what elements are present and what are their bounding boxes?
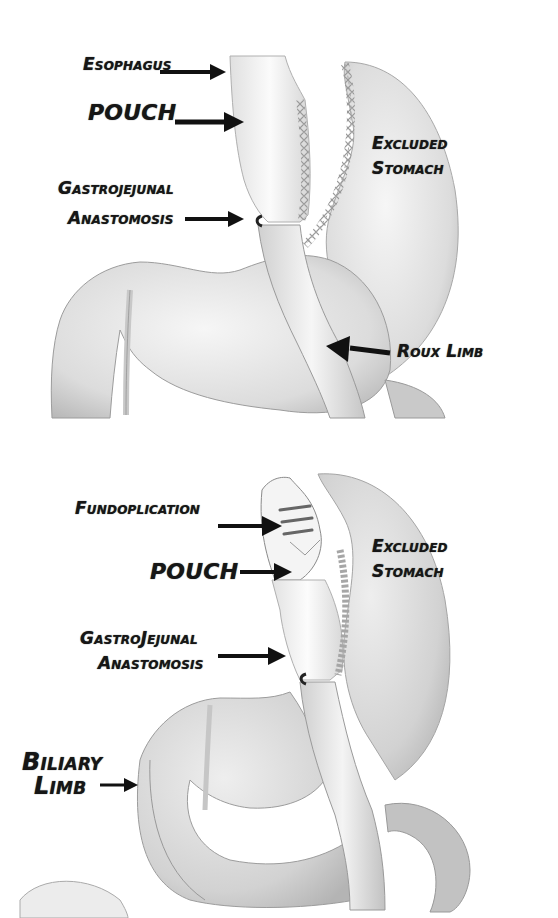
label-pouch: POUCH xyxy=(150,561,238,583)
label-stomach: Stomach xyxy=(372,160,444,177)
arrow-biliary-limb xyxy=(100,778,138,792)
label-stomach: Stomach xyxy=(372,563,444,580)
label-fundoplication: Fundoplication xyxy=(75,500,200,517)
panel-fundoplication: Fundoplication POUCH GastroJejunal Anast… xyxy=(0,430,558,918)
label-excluded: Excluded xyxy=(372,538,448,555)
label-gastrojejunal: GastroJejunal xyxy=(80,630,198,647)
panel-roux-en-y: Esophagus POUCH Gastrojejunal Anastomosi… xyxy=(0,0,558,430)
gastric-pouch-shape xyxy=(230,56,310,222)
label-roux-limb: Roux Limb xyxy=(397,343,483,360)
label-esophagus: Esophagus xyxy=(83,56,172,73)
label-pouch: POUCH xyxy=(88,102,176,124)
label-biliary: Biliary xyxy=(22,750,102,774)
label-anastomosis: Anastomosis xyxy=(68,210,174,227)
label-anastomosis: Anastomosis xyxy=(98,655,204,672)
label-gastrojejunal: Gastrojejunal xyxy=(58,180,174,197)
arrow-gastrojejunal xyxy=(185,211,244,227)
label-excluded: Excluded xyxy=(372,135,448,152)
gastric-pouch-shape xyxy=(272,580,343,680)
arrow-gastrojejunal xyxy=(218,647,286,665)
label-limb: Limb xyxy=(34,774,86,798)
